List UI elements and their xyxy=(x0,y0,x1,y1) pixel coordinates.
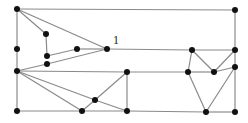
graph-node xyxy=(44,53,50,59)
graph-diagram: 1 xyxy=(0,0,248,123)
graph-edge xyxy=(127,111,206,112)
graph-edge xyxy=(17,9,107,49)
graph-node xyxy=(14,68,20,74)
graph-edge xyxy=(17,9,46,34)
graph-edge xyxy=(17,71,127,72)
graph-node xyxy=(124,69,130,75)
graph-edge xyxy=(192,50,214,72)
graph-labels: 1 xyxy=(113,33,119,47)
graph-edge xyxy=(46,34,47,56)
graph-node xyxy=(44,61,50,67)
graph-edge xyxy=(206,67,235,112)
graph-node xyxy=(189,47,195,53)
graph-node xyxy=(74,46,80,52)
graph-edge xyxy=(214,50,235,72)
graph-edge xyxy=(17,9,235,10)
graph-edge xyxy=(107,49,192,50)
graph-node xyxy=(232,64,238,70)
graph-node xyxy=(92,97,98,103)
graph-node xyxy=(232,7,238,13)
graph-node xyxy=(14,6,20,12)
graph-edge xyxy=(95,72,127,100)
graph-node xyxy=(79,108,85,114)
graph-node xyxy=(185,69,191,75)
graph-edge xyxy=(188,50,192,72)
graph-edges xyxy=(17,9,235,112)
graph-node xyxy=(203,109,209,115)
node-label-1: 1 xyxy=(113,33,119,47)
graph-node xyxy=(124,108,130,114)
graph-edge xyxy=(95,100,127,111)
graph-node xyxy=(14,108,20,114)
graph-edge xyxy=(17,64,47,71)
graph-node xyxy=(232,109,238,115)
graph-node xyxy=(43,31,49,37)
graph-node xyxy=(211,69,217,75)
graph-node xyxy=(232,47,238,53)
graph-edge xyxy=(188,72,206,112)
graph-node xyxy=(14,46,20,52)
graph-node xyxy=(104,46,110,52)
graph-edge xyxy=(47,49,77,56)
